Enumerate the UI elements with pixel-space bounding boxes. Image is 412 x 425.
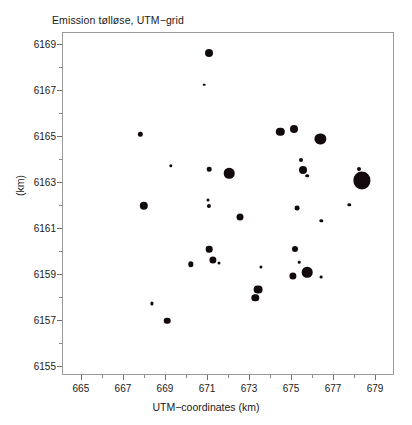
x-axis-minor-tick [312, 375, 313, 378]
data-point [169, 164, 172, 167]
data-point [353, 172, 370, 189]
x-axis-minor-tick [270, 375, 271, 378]
data-point [140, 201, 148, 209]
data-point [206, 246, 213, 253]
x-axis-tick-mark [207, 375, 208, 380]
y-axis-tick-label: 6157 [34, 314, 56, 325]
data-point [305, 174, 309, 178]
data-point [259, 265, 262, 268]
data-point [210, 256, 217, 263]
data-point [292, 246, 298, 252]
x-axis-tick-mark [249, 375, 250, 380]
data-point [320, 276, 323, 279]
x-axis-tick-mark [165, 375, 166, 380]
data-point [315, 133, 326, 144]
data-point [289, 272, 296, 279]
y-axis-tick-label: 6159 [34, 268, 56, 279]
data-point [224, 168, 235, 179]
y-axis-tick-label: 6161 [34, 222, 56, 233]
x-axis-tick-label: 671 [199, 383, 216, 394]
x-axis-tick-label: 667 [115, 383, 132, 394]
data-point [164, 317, 171, 324]
data-point [138, 132, 142, 136]
data-point [320, 219, 323, 222]
data-point [276, 128, 284, 136]
data-point [298, 261, 301, 264]
chart-title: Emission tølløse, UTM−grid [52, 14, 184, 26]
x-axis-tick-label: 669 [157, 383, 174, 394]
x-axis-title: UTM−coordinates (km) [0, 401, 412, 413]
x-axis-minor-tick [354, 375, 355, 378]
data-point [151, 302, 154, 305]
data-point [252, 294, 259, 301]
plot-area [62, 32, 394, 375]
y-axis-tick-labels: 61556157615961616163616561676169 [0, 0, 56, 425]
data-point [206, 198, 209, 201]
data-point [217, 262, 220, 265]
data-point [188, 262, 193, 267]
data-point [205, 49, 213, 57]
y-axis-tick-label: 6155 [34, 360, 56, 371]
data-point [290, 125, 298, 133]
data-point [207, 167, 212, 172]
scatter-plot-figure: Emission tølløse, UTM−grid (km) 61556157… [0, 0, 412, 425]
data-point [347, 203, 350, 206]
x-axis-tick-mark [123, 375, 124, 380]
data-point [302, 267, 313, 278]
y-axis-tick-label: 6163 [34, 176, 56, 187]
data-point [299, 158, 303, 162]
data-point [254, 285, 263, 294]
data-point [299, 166, 307, 174]
x-axis-minor-tick [102, 375, 103, 378]
x-axis-tick-label: 673 [241, 383, 258, 394]
y-axis-tick-label: 6167 [34, 84, 56, 95]
x-axis-minor-tick [144, 375, 145, 378]
x-axis-tick-label: 675 [283, 383, 300, 394]
x-axis-tick-mark [291, 375, 292, 380]
x-axis-tick-label: 677 [325, 383, 342, 394]
y-axis-tick-label: 6169 [34, 38, 56, 49]
x-axis-tick-label: 665 [73, 383, 90, 394]
data-point [357, 167, 361, 171]
x-axis-minor-tick [186, 375, 187, 378]
data-point [236, 214, 243, 221]
data-point [207, 204, 211, 208]
data-point [295, 206, 300, 211]
x-axis-tick-mark [333, 375, 334, 380]
x-axis-tick-mark [375, 375, 376, 380]
x-axis-tick-label: 679 [367, 383, 384, 394]
x-axis-tick-mark [81, 375, 82, 380]
x-axis-minor-tick [228, 375, 229, 378]
data-point [203, 83, 206, 86]
y-axis-tick-label: 6165 [34, 130, 56, 141]
